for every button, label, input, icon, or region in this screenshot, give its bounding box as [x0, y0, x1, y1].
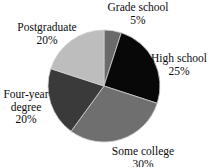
pie-label-some-college-percent: 30% [100, 158, 186, 168]
pie-label-four-year-degree: Four-year degree 20% [0, 88, 52, 126]
pie-label-high-school-name: High school [146, 52, 210, 65]
pie-label-four-year-degree-percent: 20% [0, 113, 52, 126]
pie-label-postgraduate-name: Postgraduate [4, 21, 90, 34]
pie-label-some-college-name: Some college [100, 145, 186, 158]
pie-label-high-school: High school 25% [146, 52, 210, 77]
pie-label-grade-school: Grade school 5% [96, 1, 180, 26]
pie-label-four-year-degree-name-line1: Four-year [0, 88, 52, 101]
pie-label-postgraduate: Postgraduate 20% [4, 21, 90, 46]
pie-label-some-college: Some college 30% [100, 145, 186, 167]
pie-label-four-year-degree-name-line2: degree [0, 101, 52, 114]
pie-label-grade-school-percent: 5% [96, 14, 180, 27]
pie-chart-figure: Grade school 5% Postgraduate 20% High sc… [0, 0, 210, 167]
pie-slice-group [48, 30, 160, 142]
pie-label-postgraduate-percent: 20% [4, 34, 90, 47]
pie-label-grade-school-name: Grade school [96, 1, 180, 14]
pie-label-high-school-percent: 25% [146, 65, 210, 78]
